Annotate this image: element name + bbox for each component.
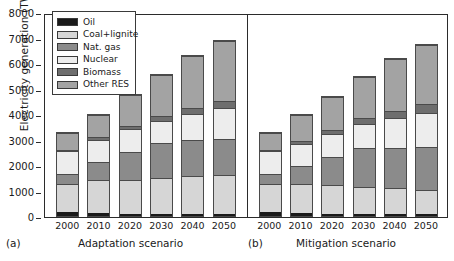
bar-segment-oil [57, 212, 78, 216]
x-tick-label: 2030 [351, 219, 374, 233]
bar-segment-nuclear [214, 108, 235, 138]
stacked-bar [321, 96, 344, 217]
bar-segment-nat-gas [416, 147, 437, 190]
y-tick-mark [36, 218, 41, 219]
legend-label: Other RES [83, 80, 129, 89]
x-tick-label: 2000 [55, 219, 78, 233]
legend-label: Biomass [83, 68, 121, 77]
figure-stacked-bar-chart: Electricity generation (TWh) 01000200030… [0, 0, 454, 261]
bar-segment-other-res [322, 97, 343, 130]
bar-segment-nat-gas [151, 143, 172, 178]
bar-segment-other-res [214, 41, 235, 101]
bar-segment-nuclear [57, 151, 78, 173]
bar-segment-oil [354, 214, 375, 216]
bar-segment-oil [120, 214, 141, 217]
x-tick-label: 2010 [288, 219, 311, 233]
bar-segment-nat-gas [88, 162, 109, 180]
bar-segment-nuclear [416, 113, 437, 147]
bar-segment-nuclear [182, 114, 203, 140]
bar-segment-nat-gas [120, 152, 141, 180]
bar-segment-biomass [416, 104, 437, 112]
bar-segment-other-res [151, 75, 172, 116]
y-tick-mark [36, 14, 41, 15]
legend-swatch [57, 31, 78, 39]
stacked-bar [259, 132, 282, 217]
bar-segment-biomass [214, 101, 235, 108]
y-tick-label: 2000 [9, 162, 34, 172]
y-tick-label: 4000 [9, 111, 34, 121]
bar-segment-nat-gas [291, 166, 312, 184]
bar-segment-nat-gas [385, 148, 406, 189]
stacked-bar [415, 44, 438, 217]
x-tick-label: 2050 [414, 219, 437, 233]
bar-group-mitigation [248, 15, 449, 217]
bar-segment-nuclear [260, 151, 281, 173]
bar-segment-coal-lignite [354, 187, 375, 214]
bar-segment-nat-gas [354, 148, 375, 187]
chart-legend: OilCoal+ligniteNat. gasNuclearBiomassOth… [52, 11, 136, 95]
panel-b-tag: (b) [248, 237, 263, 249]
y-tick-label: 3000 [9, 137, 34, 147]
x-tick-label: 2010 [86, 219, 109, 233]
x-tick-label: 2020 [118, 219, 141, 233]
bar-segment-nuclear [151, 121, 172, 144]
bar-segment-oil [182, 214, 203, 216]
legend-swatch [57, 81, 78, 89]
stacked-bar [119, 94, 142, 217]
legend-swatch [57, 43, 78, 51]
y-tick-label: 0 [28, 213, 34, 223]
legend-label: Coal+lignite [83, 30, 138, 39]
x-tick-label: 2000 [257, 219, 280, 233]
bar-segment-oil [151, 214, 172, 216]
bar-segment-coal-lignite [416, 190, 437, 215]
bar-segment-nuclear [322, 134, 343, 157]
bar-segment-other-res [385, 59, 406, 111]
bar-segment-other-res [354, 77, 375, 117]
stacked-bar [353, 76, 376, 217]
bar-segment-coal-lignite [151, 178, 172, 214]
bar-segment-nat-gas [182, 140, 203, 176]
y-tick-mark [36, 40, 41, 41]
bar-segment-coal-lignite [291, 184, 312, 214]
y-tick-mark [36, 65, 41, 66]
bar-segment-coal-lignite [182, 176, 203, 214]
bar-segment-nat-gas [57, 174, 78, 184]
y-tick-mark [36, 193, 41, 194]
bar-segment-other-res [291, 115, 312, 141]
stacked-bar [384, 58, 407, 217]
bar-segment-coal-lignite [260, 184, 281, 213]
bar-segment-coal-lignite [322, 185, 343, 213]
bar-segment-coal-lignite [88, 180, 109, 213]
stacked-bar [213, 40, 236, 217]
stacked-bar [181, 55, 204, 217]
bar-segment-coal-lignite [214, 175, 235, 214]
legend-item: Coal+lignite [57, 29, 131, 42]
bar-segment-oil [88, 213, 109, 216]
panel-mitigation [247, 15, 449, 217]
legend-item: Other RES [57, 79, 131, 92]
legend-swatch [57, 56, 78, 64]
bar-segment-oil [416, 214, 437, 216]
stacked-bar [290, 114, 313, 217]
x-tick-label: 2040 [382, 219, 405, 233]
bar-segment-oil [385, 214, 406, 216]
bar-segment-nuclear [385, 118, 406, 147]
bar-segment-biomass [385, 111, 406, 118]
stacked-bar [87, 114, 110, 217]
bar-segment-nuclear [291, 144, 312, 167]
x-tick-label: 2040 [180, 219, 203, 233]
bar-segment-oil [260, 212, 281, 216]
y-tick-label: 7000 [9, 35, 34, 45]
bar-segment-other-res [57, 133, 78, 150]
panel-a-tag: (a) [6, 237, 21, 249]
caption-panel-a: (a) Adaptation scenario [6, 237, 27, 249]
bar-segment-nat-gas [214, 139, 235, 175]
bar-segment-other-res [120, 95, 141, 126]
legend-item: Nat. gas [57, 41, 131, 54]
y-tick-mark [36, 167, 41, 168]
bar-segment-coal-lignite [57, 184, 78, 213]
y-tick-label: 8000 [9, 9, 34, 19]
y-tick-mark [36, 142, 41, 143]
y-tick-label: 5000 [9, 86, 34, 96]
bar-segment-nuclear [120, 129, 141, 152]
